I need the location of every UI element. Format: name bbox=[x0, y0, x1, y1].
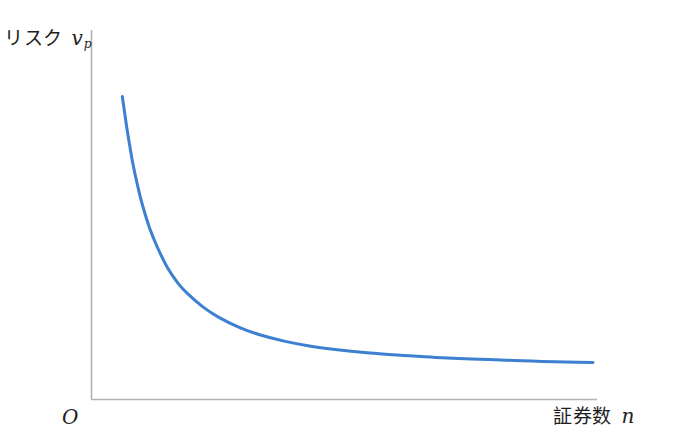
y-axis-symbol-subscript: p bbox=[84, 36, 92, 51]
y-axis-label-text: リスク bbox=[4, 27, 63, 49]
chart-figure: リスクvp 証券数n O bbox=[0, 0, 673, 447]
x-axis-label: 証券数n bbox=[553, 406, 635, 426]
y-axis-label: リスクvp bbox=[4, 28, 92, 51]
y-axis-label-symbol: vp bbox=[72, 26, 93, 50]
x-axis-label-symbol: n bbox=[622, 404, 635, 428]
origin-label: O bbox=[62, 407, 78, 427]
y-axis-symbol-base: v bbox=[72, 26, 84, 50]
x-axis-label-text: 証券数 bbox=[553, 405, 612, 427]
risk-diversification-plot bbox=[0, 0, 673, 447]
risk-curve bbox=[122, 97, 593, 363]
